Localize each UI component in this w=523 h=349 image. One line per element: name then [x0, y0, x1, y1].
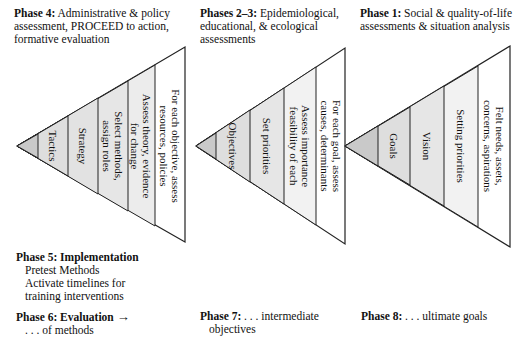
- phase7-block: Phase 7: . . . intermediate objectives: [200, 310, 350, 336]
- phase5-block: Phase 5: Implementation Pretest Methods …: [16, 251, 196, 303]
- band-text: Assess theory, evidence: [141, 94, 153, 199]
- band-text: Tactics: [47, 131, 59, 162]
- phase7-desc2: objectives: [200, 323, 350, 336]
- band-text: Objectives: [227, 122, 239, 169]
- band-text: Strategy: [77, 128, 89, 165]
- band-text: for change: [129, 123, 141, 170]
- phase8-block: Phase 8: . . . ultimate goals: [361, 310, 521, 323]
- band-text: feasibility of each: [288, 107, 300, 186]
- phase8-title: Phase 8:: [361, 310, 402, 322]
- phase6-desc: . . . of methods: [16, 324, 196, 337]
- phase6-block: Phase 6: Evaluation → . . . of methods: [16, 310, 196, 337]
- band-text: For each goal, assess: [331, 100, 343, 192]
- band-text: Goals: [388, 133, 400, 159]
- phase23-triangle: Objectives Set priorities Assess importa…: [196, 48, 345, 244]
- phase5-item: Pretest Methods: [16, 264, 196, 277]
- band-text: concerns, aspirations: [482, 100, 494, 192]
- phase7-title: Phase 7:: [200, 310, 241, 322]
- band-text: causes, determinants: [319, 100, 331, 191]
- phase8-desc: . . . ultimate goals: [405, 310, 487, 322]
- arrow-right-icon: →: [117, 309, 130, 324]
- phase6-title: Phase 6: Evaluation: [16, 311, 114, 323]
- band-text: Set priorities: [261, 118, 273, 175]
- band-text: Vision: [421, 132, 433, 161]
- phase5-item: Activate timelines for: [16, 277, 196, 290]
- band-text: Setting priorities: [455, 109, 467, 183]
- band-text: Assess importance: [300, 105, 312, 187]
- phase7-desc: . . . intermediate: [244, 310, 319, 322]
- band-text: Felt needs, assets,: [494, 107, 506, 186]
- band-text: For each objective, assess: [170, 89, 182, 203]
- phase5-title: Phase 5: Implementation: [16, 251, 139, 263]
- band-text: Select methods,: [113, 111, 125, 181]
- phase1-triangle: Goals Vision Setting priorities Felt nee…: [345, 46, 510, 247]
- phase4-triangle: Tactics Strategy Select methods, assign …: [17, 47, 185, 242]
- band-text: assign roles: [101, 120, 113, 172]
- band-text: resources, policies: [158, 105, 170, 186]
- phase5-item: training interventions: [16, 290, 196, 303]
